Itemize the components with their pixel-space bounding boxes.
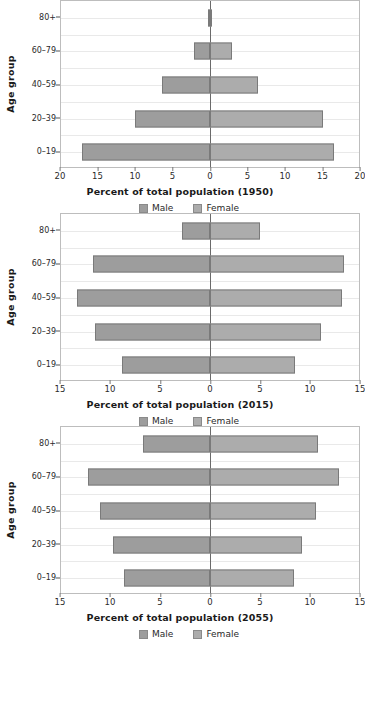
x-tick-0: 20	[55, 171, 66, 181]
x-tick-2: 10	[130, 171, 141, 181]
bar-female-40–59	[210, 77, 258, 94]
y-tick-60–79: 60–79	[32, 46, 56, 55]
pyramid-chart-0: Age group0–1920–3940–5960–7980+201510505…	[0, 0, 360, 213]
y-tick-40–59: 40–59	[32, 293, 56, 302]
bar-female-80+	[210, 222, 260, 239]
x-tick-1: 10	[105, 597, 116, 607]
x-tick-5: 5	[245, 171, 250, 181]
y-axis-label-text: Age group	[5, 481, 16, 538]
bar-female-40–59	[210, 290, 342, 307]
x-tick-5: 10	[305, 384, 316, 394]
legend-item-female[interactable]: Female	[193, 416, 239, 426]
bar-female-60–79	[210, 256, 344, 273]
bar-male-60–79	[194, 43, 210, 60]
x-tick-6: 15	[355, 384, 365, 394]
legend-label-female: Female	[206, 416, 239, 426]
y-axis-label: Age group	[0, 0, 20, 168]
bar-male-20–39	[113, 536, 210, 553]
x-tick-6: 15	[355, 597, 365, 607]
y-tick-20–39: 20–39	[32, 326, 56, 335]
legend-swatch-female-icon	[193, 417, 202, 426]
y-axis-ticks: 0–1920–3940–5960–7980+	[20, 426, 60, 594]
x-tick-2: 5	[157, 384, 162, 394]
y-axis-ticks: 0–1920–3940–5960–7980+	[20, 0, 60, 168]
x-axis-ticks: 15105051015	[60, 381, 360, 396]
x-axis-row: 15105051015	[0, 594, 360, 609]
x-axis-title: Percent of total population (2015)	[0, 399, 360, 410]
population-pyramid-chart-stack: Age group0–1920–3940–5960–7980+201510505…	[0, 0, 360, 639]
legend-swatch-female-icon	[193, 630, 202, 639]
bar-male-40–59	[100, 503, 210, 520]
legend-label-male: Male	[152, 416, 173, 426]
bar-male-80+	[143, 435, 210, 452]
bar-female-0–19	[210, 144, 334, 161]
bar-male-40–59	[162, 77, 210, 94]
x-tick-1: 10	[105, 384, 116, 394]
bar-female-20–39	[210, 536, 302, 553]
x-axis-title: Percent of total population (2055)	[0, 612, 360, 623]
y-tick-0–19: 0–19	[37, 147, 56, 156]
legend-label-male: Male	[152, 203, 173, 213]
pyramid-chart-1: Age group0–1920–3940–5960–7980+151050510…	[0, 213, 360, 426]
x-tick-1: 15	[92, 171, 103, 181]
y-tick-60–79: 60–79	[32, 259, 56, 268]
y-tick-40–59: 40–59	[32, 506, 56, 515]
x-tick-0: 15	[55, 384, 66, 394]
bar-female-20–39	[210, 110, 323, 127]
legend-item-female[interactable]: Female	[193, 203, 239, 213]
x-tick-5: 10	[305, 597, 316, 607]
bar-female-0–19	[210, 570, 294, 587]
y-tick-0–19: 0–19	[37, 360, 56, 369]
x-tick-4: 5	[257, 384, 262, 394]
chart-legend: MaleFemale	[0, 203, 360, 213]
x-tick-0: 15	[55, 597, 66, 607]
chart-area: Age group0–1920–3940–5960–7980+	[0, 213, 360, 381]
bar-male-40–59	[77, 290, 210, 307]
chart-area: Age group0–1920–3940–5960–7980+	[0, 0, 360, 168]
bar-male-60–79	[93, 256, 210, 273]
x-tick-3: 5	[170, 171, 175, 181]
y-tick-20–39: 20–39	[32, 113, 56, 122]
x-axis-row: 201510505101520	[0, 168, 360, 183]
y-tick-80+: 80+	[39, 225, 56, 234]
x-axis-spacer	[0, 594, 60, 609]
legend-item-male[interactable]: Male	[139, 203, 173, 213]
y-axis-label: Age group	[0, 213, 20, 381]
bar-female-80+	[210, 9, 212, 26]
bar-female-40–59	[210, 503, 316, 520]
y-tick-80+: 80+	[39, 12, 56, 21]
plot-area	[60, 213, 360, 381]
y-tick-80+: 80+	[39, 438, 56, 447]
bar-female-20–39	[210, 323, 321, 340]
y-tick-20–39: 20–39	[32, 539, 56, 548]
x-axis-spacer	[0, 381, 60, 396]
x-tick-4: 0	[207, 171, 212, 181]
legend-item-male[interactable]: Male	[139, 416, 173, 426]
legend-swatch-male-icon	[139, 417, 148, 426]
legend-label-male: Male	[152, 629, 173, 639]
y-axis-ticks: 0–1920–3940–5960–7980+	[20, 213, 60, 381]
y-tick-40–59: 40–59	[32, 80, 56, 89]
x-axis-row: 15105051015	[0, 381, 360, 396]
y-tick-60–79: 60–79	[32, 472, 56, 481]
bar-female-60–79	[210, 469, 339, 486]
pyramid-chart-2: Age group0–1920–3940–5960–7980+151050510…	[0, 426, 360, 639]
legend-swatch-female-icon	[193, 204, 202, 213]
y-axis-label: Age group	[0, 426, 20, 594]
chart-legend: MaleFemale	[0, 416, 360, 426]
bar-male-20–39	[95, 323, 210, 340]
legend-item-female[interactable]: Female	[193, 629, 239, 639]
legend-swatch-male-icon	[139, 204, 148, 213]
y-axis-label-text: Age group	[5, 268, 16, 325]
bar-male-0–19	[124, 570, 210, 587]
legend-label-female: Female	[206, 203, 239, 213]
bar-male-60–79	[88, 469, 210, 486]
x-tick-4: 5	[257, 597, 262, 607]
x-axis-ticks: 15105051015	[60, 594, 360, 609]
legend-item-male[interactable]: Male	[139, 629, 173, 639]
x-tick-2: 5	[157, 597, 162, 607]
plot-area	[60, 0, 360, 168]
plot-area	[60, 426, 360, 594]
x-axis-ticks: 201510505101520	[60, 168, 360, 183]
bar-female-60–79	[210, 43, 232, 60]
